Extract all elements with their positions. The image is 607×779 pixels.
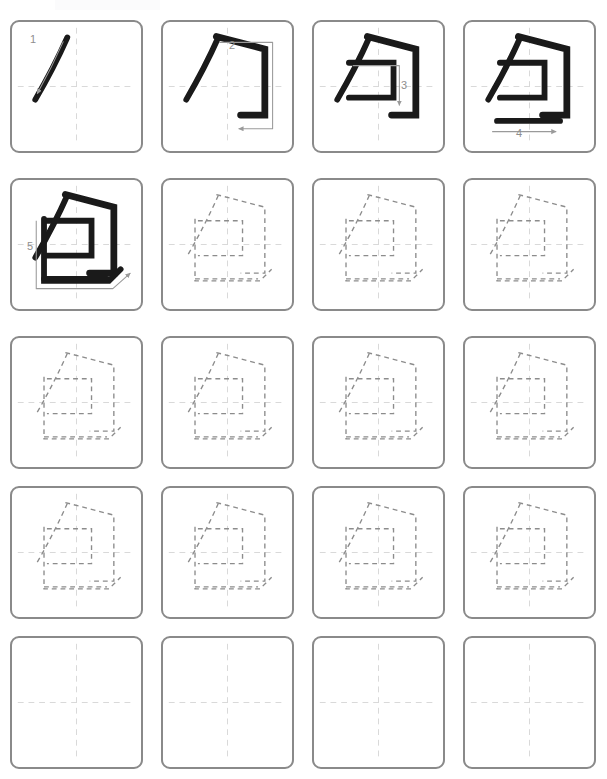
trace-outline-stroke-2 — [367, 195, 415, 274]
cell-content — [465, 180, 594, 309]
practice-cell-7 — [312, 178, 445, 311]
trace-outline-stroke-3 — [198, 529, 243, 564]
practice-cell-6 — [161, 178, 294, 311]
character-glyph — [465, 338, 594, 467]
trace-outline-stroke-1 — [337, 354, 369, 416]
trace-outline-stroke-3 — [47, 379, 92, 414]
stroke-order-number-3: 3 — [401, 80, 407, 91]
cell-content — [465, 488, 594, 617]
stroke-order-number-5: 5 — [27, 241, 33, 252]
trace-outline-stroke-3 — [500, 529, 545, 564]
trace-outline-stroke-2 — [65, 503, 113, 582]
practice-cell-4 — [463, 20, 596, 153]
cell-content — [163, 180, 292, 309]
trace-outline-stroke-5 — [44, 377, 121, 439]
practice-cell-12 — [463, 336, 596, 469]
character-glyph — [163, 180, 292, 309]
trace-outline-stroke-5 — [497, 377, 574, 439]
trace-outline-stroke-2 — [518, 353, 566, 432]
glyph-stroke-1 — [35, 38, 67, 100]
trace-outline-stroke-5 — [44, 527, 121, 589]
trace-outline-stroke-2 — [518, 503, 566, 582]
trace-outline-stroke-2 — [367, 503, 415, 582]
cell-content — [12, 488, 141, 617]
practice-cell-20[interactable] — [463, 636, 596, 769]
glyph-stroke-2 — [216, 37, 264, 116]
practice-cell-17[interactable] — [10, 636, 143, 769]
trace-outline-stroke-1 — [35, 504, 67, 566]
character-glyph — [465, 180, 594, 309]
cell-content — [163, 638, 292, 767]
practice-cell-11 — [312, 336, 445, 469]
character-glyph — [12, 338, 141, 467]
trace-outline-stroke-3 — [500, 379, 545, 414]
trace-outline-stroke-1 — [488, 354, 520, 416]
cell-content — [314, 180, 443, 309]
glyph-stroke-1 — [337, 38, 369, 100]
trace-outline-stroke-1 — [186, 354, 218, 416]
trace-outline-stroke-1 — [35, 354, 67, 416]
practice-cell-10 — [161, 336, 294, 469]
trace-outline-stroke-5 — [195, 527, 272, 589]
trace-outline-stroke-3 — [198, 379, 243, 414]
practice-cell-18[interactable] — [161, 636, 294, 769]
trace-outline-stroke-5 — [346, 377, 423, 439]
trace-outline-stroke-1 — [337, 196, 369, 258]
character-glyph — [465, 22, 594, 151]
trace-outline-stroke-3 — [500, 221, 545, 256]
character-glyph — [465, 488, 594, 617]
stroke-order-number-1: 1 — [30, 34, 36, 45]
trace-outline-stroke-3 — [198, 221, 243, 256]
trace-outline-stroke-3 — [349, 379, 394, 414]
cell-content — [12, 638, 141, 767]
cell-content — [163, 22, 292, 151]
trace-outline-stroke-5 — [195, 219, 272, 281]
trace-outline-stroke-5 — [497, 527, 574, 589]
cell-content — [12, 338, 141, 467]
cell-content — [465, 22, 594, 151]
trace-outline-stroke-2 — [367, 353, 415, 432]
trace-outline-stroke-3 — [47, 529, 92, 564]
cell-content — [314, 22, 443, 151]
character-glyph — [163, 22, 292, 151]
trace-outline-stroke-3 — [349, 529, 394, 564]
character-glyph — [314, 180, 443, 309]
character-glyph — [314, 338, 443, 467]
practice-cell-13 — [10, 486, 143, 619]
practice-cell-2 — [161, 20, 294, 153]
stroke-order-number-2: 2 — [229, 40, 235, 51]
practice-cell-15 — [312, 486, 445, 619]
character-glyph — [314, 488, 443, 617]
cell-content — [163, 338, 292, 467]
cell-content — [314, 488, 443, 617]
trace-outline-stroke-2 — [216, 503, 264, 582]
practice-cell-16 — [463, 486, 596, 619]
practice-cell-3 — [312, 20, 445, 153]
glyph-stroke-1 — [35, 196, 67, 258]
cell-content — [163, 488, 292, 617]
cell-guide-lines — [314, 638, 443, 767]
trace-outline-stroke-5 — [195, 377, 272, 439]
stroke-order-number-4: 4 — [516, 128, 522, 139]
trace-outline-stroke-5 — [497, 219, 574, 281]
trace-outline-stroke-2 — [216, 353, 264, 432]
character-glyph — [12, 488, 141, 617]
practice-cell-8 — [463, 178, 596, 311]
practice-worksheet: 12345 — [0, 0, 607, 779]
glyph-stroke-1 — [488, 38, 520, 100]
trace-outline-stroke-2 — [518, 195, 566, 274]
trace-outline-stroke-1 — [337, 504, 369, 566]
cell-content — [465, 638, 594, 767]
cell-content — [314, 338, 443, 467]
practice-cell-19[interactable] — [312, 636, 445, 769]
practice-cell-14 — [161, 486, 294, 619]
trace-outline-stroke-1 — [488, 196, 520, 258]
cell-guide-lines — [163, 638, 292, 767]
character-grid — [0, 0, 607, 779]
trace-outline-stroke-1 — [488, 504, 520, 566]
cell-content — [465, 338, 594, 467]
character-glyph — [163, 488, 292, 617]
trace-outline-stroke-5 — [346, 219, 423, 281]
practice-cell-9 — [10, 336, 143, 469]
character-glyph — [314, 22, 443, 151]
